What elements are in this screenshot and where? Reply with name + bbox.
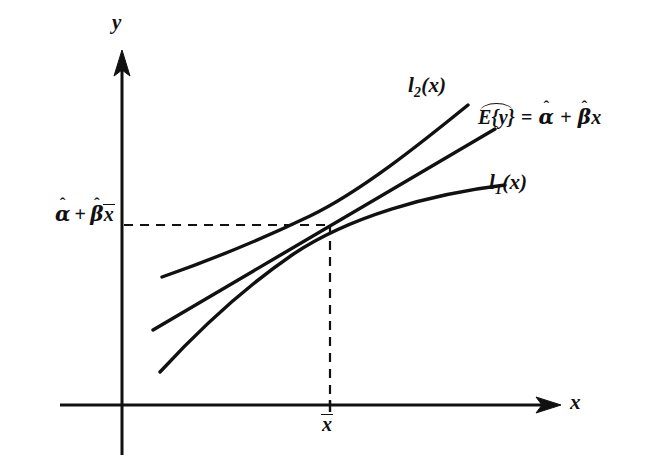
figure-canvas xyxy=(0,0,653,464)
regression-confidence-band-figure: y x l2(x) l1(x) E{y} = ˆ α + ˆβx ˆ α + ˆ… xyxy=(0,0,653,464)
overbar-icon xyxy=(103,204,115,205)
y-value-beta-hat-mark: ˆ xyxy=(94,195,100,212)
expectation-operator: E xyxy=(478,106,492,128)
y-value-x-symbol: x xyxy=(104,203,114,225)
y-value-plus-sign: + xyxy=(73,204,89,224)
y-value-beta-hat-xbar-group: ˆβx xyxy=(90,202,114,224)
lower-confidence-curve xyxy=(160,185,505,372)
brace-close: } xyxy=(508,106,515,128)
y-axis-label: y xyxy=(112,12,122,33)
regression-equation-label: E{y} = ˆ α + ˆβx xyxy=(478,104,601,127)
y-value-beta-hat-group: ˆβ xyxy=(90,202,103,224)
alpha-hat-group: ˆ α xyxy=(539,105,555,127)
y-value-label: ˆ α + ˆβx xyxy=(55,202,114,224)
x-axis-label: x xyxy=(570,392,581,413)
x-mean-symbol: x xyxy=(322,413,332,435)
x-mean-label: x xyxy=(322,414,332,434)
upper-curve-label-arg: (x) xyxy=(421,73,446,97)
upper-curve-label: l2(x) xyxy=(408,75,446,99)
beta-hat-group: ˆβ xyxy=(578,105,591,127)
brace-open: { xyxy=(492,106,499,128)
fitted-regression-line xyxy=(153,129,495,330)
beta-hat-x-group: ˆβx xyxy=(578,105,602,127)
y-value-alpha-hat-mark: ˆ xyxy=(60,195,66,212)
plus-sign: + xyxy=(558,107,574,127)
lower-curve-label: l1(x) xyxy=(489,172,527,196)
expected-value-group: E{y} xyxy=(478,104,515,127)
alpha-hat-mark: ˆ xyxy=(543,98,549,115)
lower-curve-label-arg: (x) xyxy=(502,170,527,194)
upper-confidence-curve xyxy=(162,105,468,277)
x-mean-bar-group: x xyxy=(322,414,332,434)
y-value-xbar-group: x xyxy=(104,204,114,224)
equals-sign: = xyxy=(519,107,535,127)
y-value-alpha-hat-group: ˆ α xyxy=(55,202,71,224)
x-mean-overbar-icon xyxy=(321,414,333,415)
predictor-variable: x xyxy=(591,106,601,128)
response-variable: y xyxy=(499,106,508,128)
beta-hat-mark: ˆ xyxy=(582,98,588,115)
